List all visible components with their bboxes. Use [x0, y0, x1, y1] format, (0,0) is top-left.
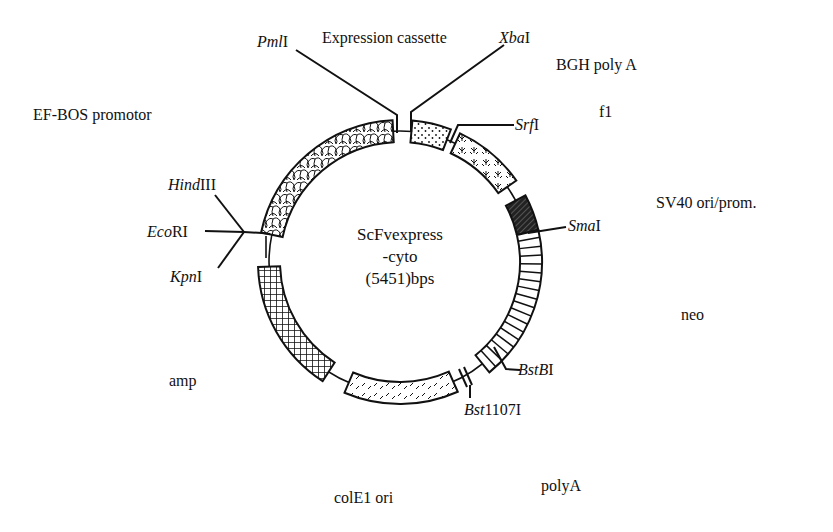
- label-expression-cassette: Expression cassette: [322, 30, 447, 46]
- site-hindiii: HindIII: [168, 177, 216, 193]
- kpni-pointer: [218, 232, 244, 268]
- site-ecori: EcoRI: [147, 224, 188, 240]
- label-neo: neo: [681, 307, 704, 323]
- site-xbai: XbaI: [499, 30, 530, 46]
- plasmid-name-line2: -cyto: [320, 246, 480, 268]
- feature-block-colE1: [345, 372, 458, 404]
- label-sv40: SV40 ori/prom.: [656, 195, 756, 211]
- feature-block-sv40: [506, 195, 538, 235]
- label-colE1: colE1 ori: [334, 490, 393, 506]
- plasmid-name: ScFvexpress -cyto (5451)bps: [320, 224, 480, 290]
- site-smai: SmaI: [568, 218, 601, 234]
- site-bst1107i: Bst1107I: [464, 402, 521, 418]
- feature-block-neo: [476, 230, 542, 372]
- plasmid-size: (5451)bps: [320, 268, 480, 290]
- label-bgh-polya: BGH poly A: [556, 57, 637, 73]
- site-pmli: PmlI: [257, 34, 288, 50]
- feature-block-expression-cassette: [410, 121, 450, 150]
- label-polyA: polyA: [541, 478, 581, 494]
- site-kpni: KpnI: [170, 269, 202, 285]
- feature-block-ef-bos: [261, 120, 394, 237]
- plasmid-map: ScFvexpress -cyto (5451)bps EF-BOS promo…: [0, 0, 833, 532]
- label-ef-bos: EF-BOS promotor: [33, 107, 152, 123]
- site-bstbi: BstBI: [518, 362, 554, 378]
- xbai-pointer: [411, 45, 504, 132]
- ecori-pointer: [205, 231, 244, 232]
- plasmid-name-line1: ScFvexpress: [320, 224, 480, 246]
- site-srfi: SrfI: [515, 117, 539, 133]
- hindiii-pointer: [215, 195, 244, 232]
- label-f1: f1: [599, 104, 612, 120]
- feature-block-f1: [451, 133, 517, 193]
- label-amp: amp: [169, 373, 197, 389]
